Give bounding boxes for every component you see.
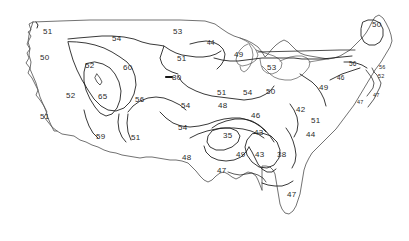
- map-canvas: [0, 0, 409, 241]
- contour-46-ma: [330, 68, 360, 80]
- contour-label: 47: [357, 100, 364, 106]
- contour-label: 49: [319, 84, 328, 92]
- contour-label: 56: [349, 61, 357, 68]
- contour-label: 48: [182, 154, 191, 162]
- contour-label: 52: [66, 92, 75, 100]
- contour-label: 56: [379, 65, 386, 71]
- gulf-coast-detail: [228, 172, 266, 182]
- contour-inner-spot: [95, 74, 102, 85]
- contour-label: 47: [373, 93, 380, 99]
- contour-label: 56: [135, 96, 144, 104]
- contour-label: 51: [217, 89, 226, 97]
- contour-label: 50: [266, 88, 275, 96]
- contour-label: 54: [112, 35, 121, 43]
- contour-label: 50: [40, 54, 49, 62]
- contour-label-peak: 80: [172, 74, 181, 82]
- contour-label: 49: [236, 151, 245, 159]
- contour-label: 54: [243, 89, 252, 97]
- contour-47-fl: [262, 181, 293, 186]
- contour-label: 47: [287, 191, 296, 199]
- contour-label: 54: [181, 102, 190, 110]
- contour-label-low: 35: [223, 132, 232, 140]
- contour-label-low: 38: [277, 151, 286, 159]
- contour-label: 46: [251, 112, 260, 120]
- contour-label: 44: [306, 131, 315, 139]
- contour-label: 43: [255, 151, 264, 159]
- contour-label: 65: [98, 93, 107, 101]
- contour-label: 53: [267, 64, 276, 72]
- contour-label: 52: [85, 62, 94, 70]
- contour-label: 49: [234, 51, 243, 59]
- contour-51-north: [164, 46, 221, 57]
- contour-label: 51: [311, 117, 320, 125]
- contour-label: 47: [217, 167, 226, 175]
- contour-51-sw: [118, 114, 126, 142]
- contour-label: 59: [96, 133, 105, 141]
- reference-line: [258, 50, 355, 52]
- contour-label: 42: [296, 106, 305, 114]
- contour-label: 46: [337, 75, 345, 82]
- contour-44: [286, 128, 296, 168]
- contour-65: [84, 62, 121, 116]
- contour-map-figure: 51 50 54 52 60 65 52 51 56 59 51 53 44 5…: [0, 0, 409, 241]
- contour-label: 60: [123, 64, 132, 72]
- contour-label: 51: [131, 134, 140, 142]
- contour-label: 51: [40, 113, 49, 121]
- contour-label: 53: [173, 28, 182, 36]
- contour-label: 51: [43, 28, 52, 36]
- contour-label: 54: [178, 124, 187, 132]
- contour-label: 43: [254, 129, 263, 137]
- contour-label: 48: [218, 102, 227, 110]
- contour-label: 50: [372, 21, 381, 29]
- contour-label: 52: [378, 74, 385, 80]
- contour-label: 51: [177, 55, 186, 63]
- contour-label: 44: [207, 40, 215, 47]
- cascade-marker: [36, 22, 38, 28]
